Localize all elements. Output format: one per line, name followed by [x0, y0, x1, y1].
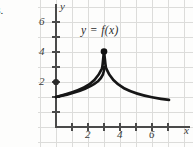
y-tick-label-6: 6 [39, 15, 45, 27]
grid-lines [38, 0, 193, 147]
axis-lines [55, 4, 189, 128]
figure-page: 3. [0, 0, 193, 147]
function-curve-left-branch [56, 53, 104, 98]
problem-number: 3. [0, 4, 3, 16]
y-intercept-point-marker [53, 79, 59, 85]
y-axis-label: y [60, 0, 65, 12]
plot-canvas [38, 0, 193, 147]
x-tick-label-2: 2 [85, 128, 91, 140]
x-tick-label-4: 4 [117, 128, 123, 140]
peak-point-marker [101, 48, 108, 55]
x-tick-label-6: 6 [149, 128, 155, 140]
x-axis-label: x [184, 124, 189, 136]
curve-equation-label: y = f(x) [81, 24, 119, 36]
function-graph-figure: 6 4 2 2 4 6 y x y = f(x) [38, 0, 193, 147]
y-tick-label-2: 2 [39, 75, 45, 87]
y-tick-label-4: 4 [39, 45, 45, 57]
